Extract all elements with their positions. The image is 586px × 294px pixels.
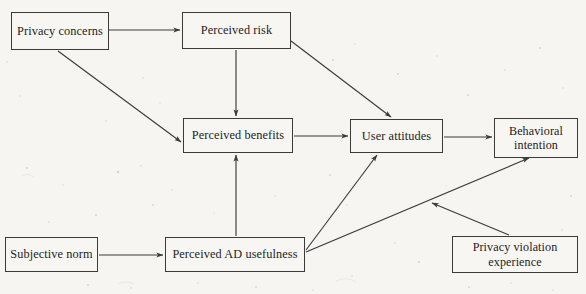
node-perceived-benefits[interactable]: Perceived benefits [183, 118, 293, 153]
node-privacy-violation-experience[interactable]: Privacy violation experience [452, 236, 578, 273]
node-behavioral-intention-label: Behavioral intention [509, 124, 563, 153]
node-privacy-concerns[interactable]: Privacy concerns [11, 12, 109, 50]
node-perceived-risk[interactable]: Perceived risk [182, 12, 291, 49]
node-privacy-violation-experience-label: Privacy violation experience [473, 240, 558, 269]
edge-privacy-concerns-to-perceived-benefits [58, 51, 181, 142]
edge-perceived-ad-usefulness-to-user-attitudes [306, 155, 377, 250]
node-perceived-risk-label: Perceived risk [201, 23, 272, 38]
edge-privacy-violation-experience-moderator [432, 203, 509, 235]
edge-perceived-risk-to-user-attitudes [291, 41, 391, 117]
node-subjective-norm[interactable]: Subjective norm [5, 237, 98, 272]
node-privacy-concerns-label: Privacy concerns [17, 24, 103, 39]
node-user-attitudes-label: User attitudes [362, 129, 431, 144]
node-behavioral-intention[interactable]: Behavioral intention [494, 118, 578, 158]
node-perceived-ad-usefulness[interactable]: Perceived AD usefulness [165, 237, 305, 272]
node-perceived-ad-usefulness-label: Perceived AD usefulness [172, 247, 297, 262]
diagram-canvas: Privacy concerns Perceived risk Perceive… [0, 0, 586, 294]
node-perceived-benefits-label: Perceived benefits [192, 128, 284, 143]
node-subjective-norm-label: Subjective norm [10, 247, 92, 262]
node-user-attitudes[interactable]: User attitudes [350, 119, 443, 153]
